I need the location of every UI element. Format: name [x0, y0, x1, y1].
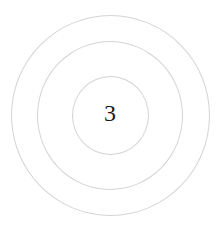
center-number-label: 3 — [90, 97, 130, 129]
concentric-circles-diagram: 3 — [0, 0, 222, 235]
